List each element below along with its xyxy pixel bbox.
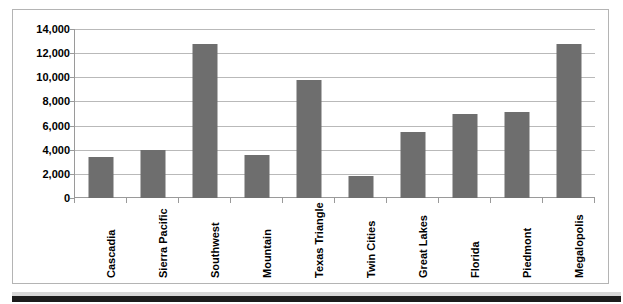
x-axis-tick bbox=[334, 198, 335, 203]
x-axis-tick bbox=[438, 198, 439, 203]
bar-slot bbox=[75, 29, 127, 198]
x-axis-category-labels: CascadiaSierra PacificSouthwestMountainT… bbox=[74, 205, 594, 280]
bar[interactable] bbox=[193, 44, 218, 199]
x-axis-tick bbox=[282, 198, 283, 203]
x-axis-tick bbox=[594, 198, 595, 203]
x-axis-category-label: Piedmont bbox=[521, 228, 533, 278]
bar[interactable] bbox=[505, 112, 530, 198]
bar-slot bbox=[179, 29, 231, 198]
y-axis-labels: 02,0004,0006,0008,00010,00012,00014,000 bbox=[12, 9, 74, 284]
bar[interactable] bbox=[401, 132, 426, 198]
x-axis-category-label: Southwest bbox=[209, 222, 221, 278]
x-axis-tick bbox=[386, 198, 387, 203]
bar-slot bbox=[127, 29, 179, 198]
bar[interactable] bbox=[245, 155, 270, 198]
x-axis-category-label: Great Lakes bbox=[417, 215, 429, 278]
x-axis-tick bbox=[542, 198, 543, 203]
bar-slot bbox=[543, 29, 595, 198]
y-axis-tick-label: 14,000 bbox=[36, 23, 70, 35]
x-axis-category-label: Florida bbox=[469, 241, 481, 278]
page-bottom-edge bbox=[12, 296, 621, 302]
y-axis-tick-label: 12,000 bbox=[36, 47, 70, 59]
x-axis-tick bbox=[126, 198, 127, 203]
bar-slot bbox=[387, 29, 439, 198]
bar[interactable] bbox=[297, 80, 322, 198]
chart-screenshot: 02,0004,0006,0008,00010,00012,00014,000 … bbox=[0, 0, 623, 304]
x-axis-category-label: Mountain bbox=[261, 229, 273, 278]
x-axis-category-label: Texas Triangle bbox=[313, 202, 325, 278]
bar[interactable] bbox=[557, 44, 582, 198]
y-axis-tick-label: 2,000 bbox=[42, 168, 70, 180]
bar-slot bbox=[491, 29, 543, 198]
x-axis-ticks bbox=[74, 198, 594, 204]
bar-series bbox=[75, 29, 595, 198]
bar-slot bbox=[335, 29, 387, 198]
y-axis-tick-label: 10,000 bbox=[36, 71, 70, 83]
y-axis-tick-label: 6,000 bbox=[42, 120, 70, 132]
x-axis-tick bbox=[490, 198, 491, 203]
bar[interactable] bbox=[141, 150, 166, 198]
x-axis-category-label: Cascadia bbox=[105, 230, 117, 278]
x-axis-tick bbox=[74, 198, 75, 203]
y-axis-tick-label: 4,000 bbox=[42, 144, 70, 156]
x-axis-tick bbox=[178, 198, 179, 203]
bar[interactable] bbox=[89, 157, 114, 198]
x-axis-category-label: Megalopolis bbox=[573, 214, 585, 278]
bar-slot bbox=[283, 29, 335, 198]
bar[interactable] bbox=[349, 176, 374, 198]
x-axis-tick bbox=[230, 198, 231, 203]
plot-area bbox=[74, 29, 595, 198]
x-axis-category-label: Sierra Pacific bbox=[157, 208, 169, 278]
y-axis-tick-label: 8,000 bbox=[42, 95, 70, 107]
bar-slot bbox=[231, 29, 283, 198]
x-axis-category-label: Twin Cities bbox=[365, 221, 377, 278]
bar[interactable] bbox=[453, 114, 478, 198]
bar-chart: 02,0004,0006,0008,00010,00012,00014,000 … bbox=[12, 9, 609, 284]
bar-slot bbox=[439, 29, 491, 198]
